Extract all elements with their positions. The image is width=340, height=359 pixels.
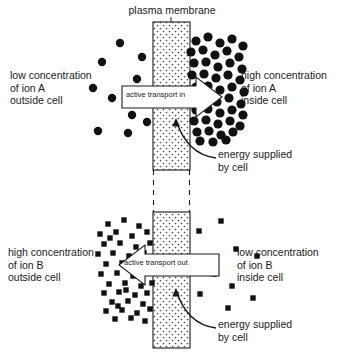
membrane-break-dashed [154,170,190,212]
label-ion-b-inside: low concentration of ion B inside cell [237,246,337,284]
label-ion-a-outside: low concentration of ion A outside cell [10,69,106,107]
diagram-canvas [0,0,340,359]
label-ion-b-outside: high concentration of ion B outside cell [8,246,108,284]
label-energy-supplied-top: energy supplied by cell [218,148,328,173]
page-title: plasma membrane [112,4,232,17]
membrane-bottom-segment [153,212,190,348]
label-active-transport-out: active transport out [124,258,188,267]
label-energy-supplied-bottom: energy supplied by cell [218,318,328,343]
label-ion-a-inside: high concentration of ion A inside cell [241,69,337,107]
label-active-transport-in: active transport in [126,90,185,99]
active-transport-diagram: plasma membrane low concentration of ion… [0,0,340,359]
